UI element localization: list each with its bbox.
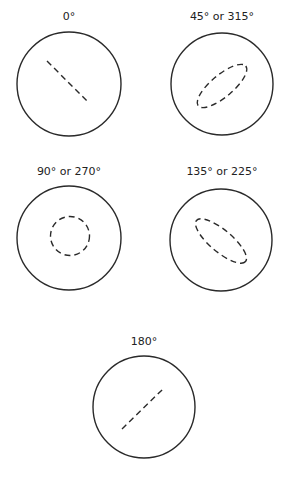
scope-circle xyxy=(171,33,273,135)
panel-label: 45° or 315° xyxy=(190,10,254,23)
dashed-circle-pattern xyxy=(51,217,90,256)
panel-90-or-270deg: 90° or 270° xyxy=(17,165,121,290)
scope-circle xyxy=(170,189,272,291)
scope-circle xyxy=(17,186,121,290)
dashed-line-pattern xyxy=(122,388,164,429)
panel-180deg: 180° xyxy=(93,335,195,458)
lissajous-figure: 0° 45° or 315° 90° or 270° 135° or 225° … xyxy=(0,0,287,479)
dashed-ellipse-pattern xyxy=(189,212,252,270)
panel-135-or-225deg: 135° or 225° xyxy=(170,165,272,291)
panel-label: 90° or 270° xyxy=(37,165,101,178)
panel-label: 135° or 225° xyxy=(186,165,257,178)
panel-0deg: 0° xyxy=(17,10,121,136)
dashed-ellipse-pattern xyxy=(191,58,253,115)
scope-circle xyxy=(17,32,121,136)
panel-45-or-315deg: 45° or 315° xyxy=(171,10,273,135)
dashed-line-pattern xyxy=(47,61,89,103)
panel-label: 0° xyxy=(63,10,76,23)
panel-label: 180° xyxy=(131,335,158,348)
